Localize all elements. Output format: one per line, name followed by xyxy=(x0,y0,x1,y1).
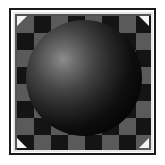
corner-handle-bottom-left-icon[interactable] xyxy=(17,137,28,148)
corner-handle-top-right-icon[interactable] xyxy=(138,16,149,27)
thumbnail-preview[interactable]: Shaded sphere over checkerboard xyxy=(13,12,153,152)
shaded-sphere xyxy=(26,20,142,136)
thumbnail-description: Shaded sphere over checkerboard xyxy=(15,14,16,15)
corner-handle-top-left-icon[interactable] xyxy=(17,16,28,27)
corner-handle-bottom-right-icon[interactable] xyxy=(138,137,149,148)
